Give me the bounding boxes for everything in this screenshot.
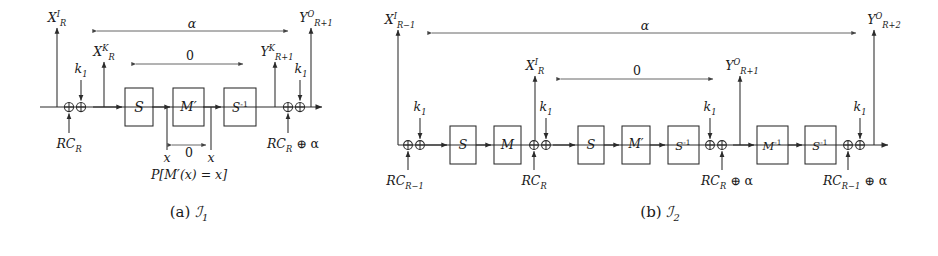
panel-a-zero-top-label: 0	[186, 50, 194, 63]
panel-a-box-Mprime-label: M′	[180, 100, 196, 113]
panel-b-k1-1-label: k1	[414, 101, 427, 116]
panel-b-zero-label: 0	[633, 65, 641, 78]
panel-a-rc-left-label: RCR	[56, 138, 81, 153]
panel-b-rc2-label: RCR	[521, 175, 546, 190]
panel-a-k1-left-label: k1	[75, 63, 88, 78]
panel-a-box-S-label: S	[134, 100, 144, 114]
panel-b-box-M-label: M	[501, 138, 514, 151]
panel-a-caption: (a) ℐ1	[170, 205, 209, 223]
panel-b-rc4-label: RCR−1 ⊕ α	[823, 175, 887, 190]
panel-b-rc3-label: RCR ⊕ α	[701, 175, 753, 190]
panel-a-label-XIR: XIR	[48, 10, 66, 27]
panel-b-label-XIR: XIR	[526, 58, 544, 75]
panel-a-label-XKR: XKR	[93, 44, 114, 61]
panel-b-box-Minv-label: M-1	[762, 139, 781, 152]
panel-a-k1-right-label: k1	[295, 63, 308, 78]
panel-a-label-YKR1: YKR+1	[261, 44, 294, 61]
panel-a-tap-right-label: x	[207, 152, 214, 165]
panel-a-label-YOR1: YOR+1	[299, 10, 332, 27]
panel-a-rc-right-label: RCR ⊕ α	[267, 138, 319, 153]
panel-a-box-Sinv-label: S-1	[232, 101, 248, 114]
panel-b-box-Mprime-label: M′	[628, 138, 643, 150]
panel-a-probability-label: P[M′(x) = x]	[151, 169, 227, 182]
panel-b-k1-3-label: k1	[704, 101, 717, 116]
panel-a-alpha-label: α	[188, 18, 196, 31]
figure-root: XIR XKR YKR+1 YOR+1 α 0 0 k1 k1 RCR RCR …	[0, 0, 938, 256]
panel-b-label-YOR1: YOR+1	[725, 58, 758, 75]
panel-b-box-Sinv2-label: S-1	[812, 139, 827, 152]
panel-b-k1-4-label: k1	[854, 101, 867, 116]
panel-b-label-XIRm1: XIR−1	[385, 12, 416, 29]
panel-b-caption: (b) ℐ2	[640, 205, 679, 223]
panel-a-zero-bottom-label: 0	[185, 147, 193, 160]
figure-svg	[0, 0, 938, 256]
panel-b-label-YOR2: YOR+2	[867, 12, 900, 29]
panel-b-alpha-label: α	[641, 20, 649, 33]
panel-b-box-S1-label: S	[459, 138, 468, 151]
panel-b-rc1-label: RCR−1	[386, 175, 423, 190]
panel-a-tap-left-label: x	[163, 152, 170, 165]
panel-b-box-S2-label: S	[587, 138, 596, 151]
panel-b-box-Sinv1-label: S-1	[675, 139, 690, 152]
panel-b-k1-2-label: k1	[540, 101, 553, 116]
